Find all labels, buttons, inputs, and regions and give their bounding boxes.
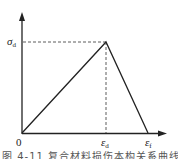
figure-caption: 图 4-11 复合材料损伤本构关系曲线 (2, 150, 178, 159)
sigma-subscript: d (12, 41, 16, 49)
eps-f-subscript: f (149, 142, 151, 150)
damage-curve (22, 42, 148, 133)
eps-f-label: εf (145, 137, 152, 150)
sigma-d-label: σd (7, 36, 16, 49)
stress-strain-diagram (0, 0, 178, 159)
origin-label: 0 (16, 137, 22, 148)
y-axis-arrow-icon (19, 12, 25, 21)
eps-d-subscript: d (105, 142, 109, 150)
origin-text: 0 (16, 136, 22, 148)
eps-d-label: εd (101, 137, 109, 150)
x-axis-arrow-icon (158, 131, 167, 137)
